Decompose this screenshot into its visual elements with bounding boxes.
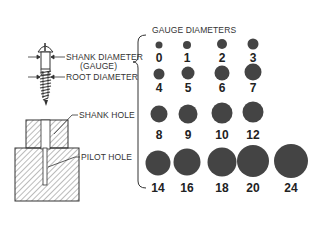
gauge-dot-9	[179, 105, 198, 124]
gauge-dot-1	[183, 41, 191, 49]
gauge-dot-5	[182, 67, 195, 80]
gauge-number-16: 16	[172, 182, 202, 194]
gauge-dot-6	[215, 66, 230, 81]
gauge-dot-4	[154, 69, 165, 80]
gauge-number-9: 9	[173, 129, 203, 141]
root-diameter-label: ROOT DIAMETER	[66, 73, 138, 82]
gauge-dot-18	[208, 148, 237, 177]
gauge-dot-16	[174, 149, 201, 176]
gauge-label: (GAUGE)	[80, 62, 117, 71]
gauge-dot-3	[248, 39, 259, 50]
gauge-dot-10	[212, 103, 233, 124]
gauge-number-18: 18	[207, 182, 237, 194]
gauge-number-1: 1	[172, 52, 202, 64]
gauge-dot-20	[237, 145, 269, 177]
gauge-number-0: 0	[144, 52, 174, 64]
gauge-number-6: 6	[207, 82, 237, 94]
gauge-number-8: 8	[144, 129, 174, 141]
gauge-dot-12	[243, 102, 264, 123]
gauge-dot-24	[274, 144, 308, 178]
gauge-dot-8	[151, 106, 168, 123]
gauge-number-5: 5	[173, 82, 203, 94]
gauge-number-24: 24	[276, 182, 306, 194]
wood-block-section	[15, 120, 79, 201]
gauge-number-20: 20	[238, 182, 268, 194]
gauge-dot-2	[217, 39, 227, 49]
gauge-dot-0	[156, 42, 163, 49]
gauge-number-14: 14	[143, 182, 173, 194]
gauge-diameters-title: GAUGE DIAMETERS	[152, 26, 236, 35]
gauge-dot-7	[245, 64, 262, 81]
gauge-number-12: 12	[238, 129, 268, 141]
gauge-dot-14	[146, 151, 171, 176]
screw-icon	[38, 43, 53, 106]
gauge-number-3: 3	[238, 52, 268, 64]
shank-hole-label: SHANK HOLE	[79, 111, 135, 120]
gauge-number-7: 7	[238, 82, 268, 94]
gauge-number-4: 4	[144, 82, 174, 94]
gauge-number-2: 2	[207, 52, 237, 64]
gauge-number-10: 10	[207, 129, 237, 141]
pilot-hole-label: PILOT HOLE	[81, 153, 132, 162]
